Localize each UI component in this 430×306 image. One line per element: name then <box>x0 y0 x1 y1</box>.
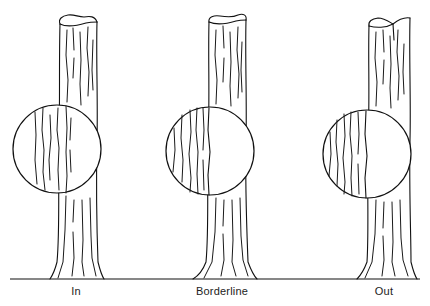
circle-out <box>323 110 411 198</box>
circle-borderline <box>166 107 254 195</box>
label-out: Out <box>375 285 393 297</box>
circle-in <box>13 105 101 193</box>
tree-classification-diagram: In Borderline Out <box>0 0 430 306</box>
diagram-canvas <box>0 0 430 306</box>
label-borderline: Borderline <box>196 285 248 297</box>
label-in: In <box>71 285 81 297</box>
